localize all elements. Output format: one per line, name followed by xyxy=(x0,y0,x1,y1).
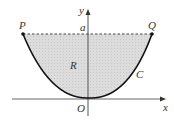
label-r: R xyxy=(69,59,77,71)
label-a: a xyxy=(80,21,86,33)
label-x: x xyxy=(162,101,168,113)
label-q: Q xyxy=(148,19,156,31)
label-o: O xyxy=(77,102,85,114)
label-c: C xyxy=(136,68,144,80)
y-axis-arrow-icon xyxy=(86,9,91,15)
point-q-marker xyxy=(150,32,154,36)
label-y: y xyxy=(78,4,84,16)
point-p-marker xyxy=(21,32,25,36)
diagram-canvas: y a P Q R C O x xyxy=(0,0,174,122)
label-p: P xyxy=(18,19,26,31)
